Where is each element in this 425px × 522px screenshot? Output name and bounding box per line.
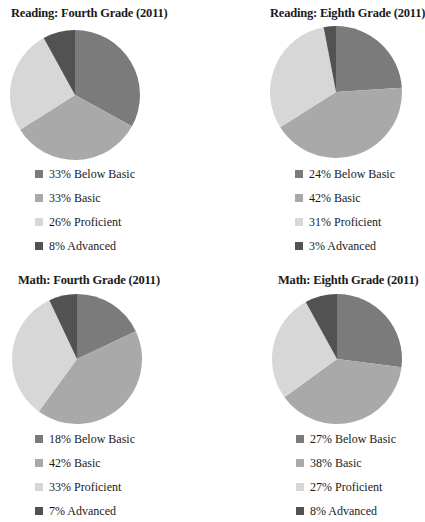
pie-slice-below-basic <box>336 26 402 92</box>
legend-item-advanced: 8% Advanced <box>35 234 135 258</box>
swatch-basic <box>296 459 304 467</box>
swatch-proficient <box>35 218 43 226</box>
legend-item-basic: 42% Basic <box>35 451 135 475</box>
swatch-below-basic <box>296 435 304 443</box>
legend-item-proficient: 31% Proficient <box>295 210 395 234</box>
pie-chart <box>0 0 206 170</box>
legend-item-advanced: 7% Advanced <box>35 499 135 522</box>
chart-panel-reading-eighth: Reading: Eighth Grade (2011) 24% Below B… <box>206 0 413 261</box>
swatch-basic <box>295 194 303 202</box>
swatch-below-basic <box>295 170 303 178</box>
pie-chart <box>0 261 206 431</box>
pie-chart <box>206 261 413 431</box>
chart-panel-math-fourth: Math: Fourth Grade (2011) 18% Below Basi… <box>0 261 206 522</box>
legend: 33% Below Basic 33% Basic 26% Proficient… <box>35 162 135 258</box>
legend: 27% Below Basic 38% Basic 27% Proficient… <box>296 427 396 522</box>
swatch-advanced <box>35 507 43 515</box>
swatch-advanced <box>35 242 43 250</box>
legend-item-advanced: 3% Advanced <box>295 234 395 258</box>
legend-item-below-basic: 33% Below Basic <box>35 162 135 186</box>
legend-item-advanced: 8% Advanced <box>296 499 396 522</box>
legend-item-proficient: 27% Proficient <box>296 475 396 499</box>
legend-item-proficient: 33% Proficient <box>35 475 135 499</box>
legend-item-below-basic: 27% Below Basic <box>296 427 396 451</box>
legend-item-basic: 33% Basic <box>35 186 135 210</box>
chart-panel-math-eighth: Math: Eighth Grade (2011) 27% Below Basi… <box>206 261 413 522</box>
pie-slice-below-basic <box>337 294 402 367</box>
swatch-proficient <box>296 483 304 491</box>
swatch-advanced <box>295 242 303 250</box>
chart-panel-reading-fourth: Reading: Fourth Grade (2011) 33% Below B… <box>0 0 206 261</box>
swatch-proficient <box>35 483 43 491</box>
swatch-basic <box>35 459 43 467</box>
pie-chart <box>206 0 413 170</box>
legend: 18% Below Basic 42% Basic 33% Proficient… <box>35 427 135 522</box>
swatch-proficient <box>295 218 303 226</box>
swatch-below-basic <box>35 170 43 178</box>
legend-item-below-basic: 18% Below Basic <box>35 427 135 451</box>
legend-item-below-basic: 24% Below Basic <box>295 162 395 186</box>
swatch-basic <box>35 194 43 202</box>
legend-item-basic: 38% Basic <box>296 451 396 475</box>
legend-item-basic: 42% Basic <box>295 186 395 210</box>
legend-item-proficient: 26% Proficient <box>35 210 135 234</box>
swatch-below-basic <box>35 435 43 443</box>
swatch-advanced <box>296 507 304 515</box>
legend: 24% Below Basic 42% Basic 31% Proficient… <box>295 162 395 258</box>
